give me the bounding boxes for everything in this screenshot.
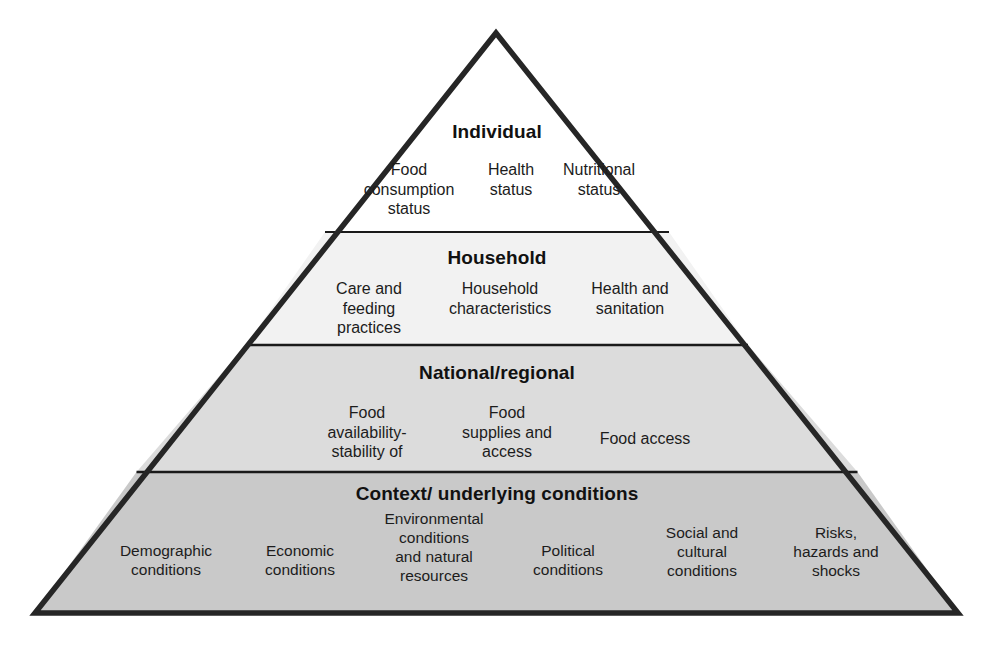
pyramid-diagram-canvas: Individual Food consumption status Healt… xyxy=(0,0,994,645)
pyramid-shape xyxy=(0,0,994,645)
tier-shape-individual xyxy=(325,33,669,232)
tier-shape-national xyxy=(137,345,858,472)
tier-shape-context xyxy=(35,472,958,613)
